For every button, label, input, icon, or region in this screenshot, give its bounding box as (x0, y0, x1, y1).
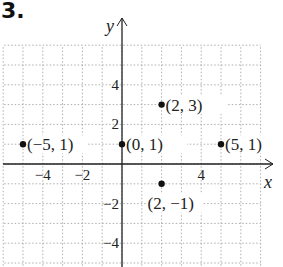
x-tick-label: −2 (74, 167, 90, 183)
y-axis-label: y (104, 16, 114, 36)
y-tick-label: 4 (112, 77, 120, 93)
x-axis-label: x (263, 172, 272, 192)
point-label: (2, −1) (148, 194, 194, 213)
point-label: (0, 1) (126, 135, 163, 154)
data-points: (−5, 1)(0, 1)(2, 3)(5, 1)(2, −1) (20, 96, 283, 213)
data-point (119, 141, 125, 147)
data-point (158, 181, 164, 187)
x-tick-label: 4 (197, 167, 205, 183)
point-label: (−5, 1) (27, 135, 73, 154)
y-tick-label: −4 (103, 235, 119, 251)
data-point (158, 101, 164, 107)
x-tick-label: −4 (35, 167, 51, 183)
data-point (218, 141, 224, 147)
coordinate-plane: xy −4−2442−2−4 (−5, 1)(0, 1)(2, 3)(5, 1)… (0, 0, 283, 267)
point-label: (2, 3) (166, 96, 203, 115)
grid (3, 45, 260, 267)
y-tick-label: −2 (103, 196, 119, 212)
data-point (20, 141, 26, 147)
y-tick-label: 2 (112, 116, 120, 132)
point-label: (5, 1) (225, 135, 262, 154)
